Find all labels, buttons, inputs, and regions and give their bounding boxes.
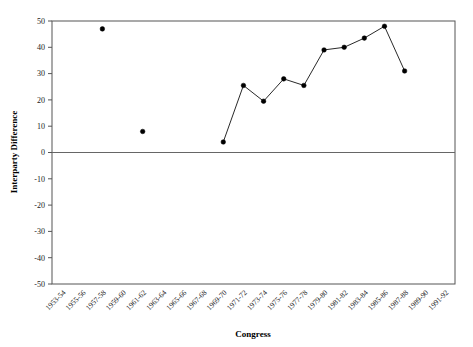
series-polyline-group: [223, 26, 404, 142]
data-point-marker: [281, 77, 286, 82]
y-tick-label: 10: [37, 122, 45, 131]
data-point-marker: [140, 129, 145, 134]
y-tick-label: 30: [37, 69, 45, 78]
x-tick-label: 1953-54: [43, 288, 67, 312]
x-axis-tick-labels: 1953-541955-561957-581959-601961-621963-…: [43, 288, 450, 312]
y-tick-label: 40: [37, 43, 45, 52]
data-point-marker: [100, 27, 105, 32]
data-point-marker: [362, 36, 367, 41]
x-tick-label: 1977-78: [285, 288, 309, 312]
data-point-marker: [261, 99, 266, 104]
y-tick-label: -30: [34, 227, 45, 236]
data-point-marker: [302, 83, 307, 88]
x-tick-label: 1979-80: [305, 288, 329, 312]
x-tick-label: 1961-62: [124, 288, 148, 312]
x-tick-label: 1987-88: [386, 288, 410, 312]
y-tick-label: -10: [34, 175, 45, 184]
data-point-marker: [241, 83, 246, 88]
y-axis-ticks: 50403020100-10-20-30-40-50: [34, 17, 52, 289]
x-tick-label: 1969-70: [205, 288, 229, 312]
y-tick-label: 20: [37, 96, 45, 105]
y-axis-title: Interparty Difference: [9, 111, 19, 194]
y-tick-label: 0: [41, 148, 45, 157]
x-tick-label: 1959-60: [104, 288, 128, 312]
x-tick-label: 1965-66: [164, 288, 188, 312]
data-point-marker: [322, 48, 327, 53]
x-tick-label: 1983-84: [346, 288, 370, 312]
chart-figure: 50403020100-10-20-30-40-50 1953-541955-5…: [0, 0, 473, 347]
x-tick-label: 1967-68: [184, 288, 208, 312]
interparty-difference-chart: 50403020100-10-20-30-40-50 1953-541955-5…: [0, 0, 473, 347]
data-point-marker: [221, 140, 226, 145]
data-point-marker: [402, 69, 407, 74]
y-tick-label: -40: [34, 254, 45, 263]
y-tick-label: 50: [37, 17, 45, 26]
x-tick-label: 1963-64: [144, 288, 168, 312]
x-tick-label: 1989-90: [406, 288, 430, 312]
x-axis-title: Congress: [235, 329, 271, 339]
x-tick-label: 1957-58: [84, 288, 108, 312]
data-point-marker: [342, 45, 347, 50]
data-point-marker: [382, 24, 387, 29]
x-tick-label: 1971-72: [225, 288, 249, 312]
x-tick-label: 1975-76: [265, 288, 289, 312]
x-tick-label: 1981-82: [326, 288, 350, 312]
x-tick-label: 1955-56: [64, 288, 88, 312]
x-tick-label: 1985-86: [366, 288, 390, 312]
y-tick-label: -20: [34, 201, 45, 210]
y-tick-label: -50: [34, 280, 45, 289]
series-line-connected-series: [223, 26, 404, 142]
x-tick-label: 1973-74: [245, 288, 269, 312]
x-tick-label: 1991-92: [426, 288, 450, 312]
data-point-markers: [100, 24, 407, 144]
